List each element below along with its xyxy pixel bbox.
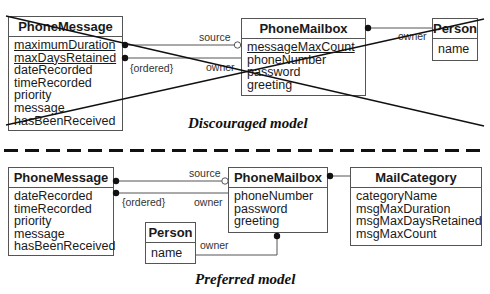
attribute: password (247, 66, 365, 79)
attribute-static: messageMaxCount (247, 41, 365, 54)
class-name: Person (433, 19, 477, 39)
attribute-list: messageMaxCount phoneNumber password gre… (242, 39, 365, 91)
attribute: priority (14, 215, 113, 228)
attribute: msgMaxDaysRetained (356, 215, 481, 228)
attribute: greeting (247, 79, 365, 92)
attribute: hasBeenReceived (14, 240, 113, 253)
caption-discouraged: Discouraged model (188, 115, 308, 132)
role-label-source: source (189, 167, 221, 179)
class-name: PhoneMailbox (229, 168, 327, 188)
class-phone-mailbox-discouraged: PhoneMailbox messageMaxCount phoneNumber… (241, 18, 366, 96)
attribute: dateRecorded (14, 190, 113, 203)
class-person-preferred: Person name (145, 222, 196, 264)
attribute: categoryName (356, 190, 481, 203)
role-label-owner: owner (206, 61, 235, 73)
role-label-owner: owner (200, 239, 229, 251)
role-label-owner: owner (398, 30, 427, 42)
attribute-static: maximumDuration (14, 39, 122, 52)
class-name: PhoneMessage (9, 168, 113, 188)
class-phone-message-preferred: PhoneMessage dateRecorded timeRecorded p… (8, 167, 114, 256)
caption-preferred: Preferred model (195, 271, 295, 288)
optional-circle-icon (234, 42, 240, 48)
attribute: hasBeenReceived (14, 115, 122, 128)
attribute-list: maximumDuration maxDaysRetained dateReco… (9, 37, 122, 127)
class-name: Person (146, 223, 195, 243)
attribute: phoneNumber (234, 190, 327, 203)
attribute: name (438, 43, 477, 56)
attribute: msgMaxCount (356, 228, 481, 241)
attribute-list: name (433, 39, 477, 56)
class-phone-mailbox-preferred: PhoneMailbox phoneNumber password greeti… (228, 167, 328, 233)
constraint-label-ordered: {ordered} (130, 62, 173, 74)
constraint-label-ordered: {ordered} (122, 196, 165, 208)
role-label-source: source (199, 31, 231, 43)
class-name: MailCategory (351, 168, 481, 188)
class-person-discouraged: Person name (432, 18, 478, 61)
many-dot-icon (274, 233, 280, 239)
attribute: name (151, 247, 195, 260)
class-mail-category: MailCategory categoryName msgMaxDuration… (350, 167, 482, 246)
attribute-list: categoryName msgMaxDuration msgMaxDaysRe… (351, 188, 481, 240)
role-label-owner: owner (194, 196, 223, 208)
class-phone-message-discouraged: PhoneMessage maximumDuration maxDaysReta… (8, 16, 123, 131)
class-name: PhoneMailbox (242, 19, 365, 39)
class-name: PhoneMessage (9, 17, 122, 37)
attribute: message (14, 102, 122, 115)
attribute-list: dateRecorded timeRecorded priority messa… (9, 188, 113, 253)
attribute-list: phoneNumber password greeting (229, 188, 327, 228)
attribute-list: name (146, 243, 195, 260)
attribute: dateRecorded (14, 64, 122, 77)
attribute: greeting (234, 215, 327, 228)
